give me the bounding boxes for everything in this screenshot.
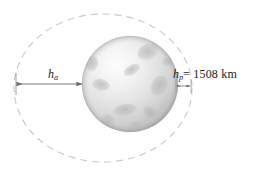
planet-sphere <box>82 36 178 134</box>
diagram-canvas <box>0 0 254 174</box>
apoapsis-label: ha <box>48 68 58 82</box>
periapsis-label: hp= 1508 km <box>173 68 237 82</box>
apoapsis-subscript: a <box>54 73 58 82</box>
orbit-diagram-figure: ha hp= 1508 km <box>0 0 254 174</box>
periapsis-value: = 1508 km <box>183 67 237 81</box>
